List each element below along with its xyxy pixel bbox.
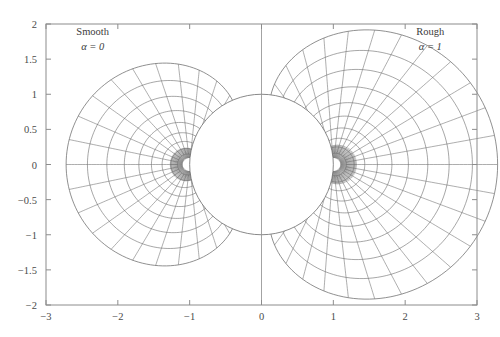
mesh-ray <box>178 64 188 154</box>
annotation-rough-title: Rough <box>416 25 444 39</box>
mesh-ray <box>343 173 451 268</box>
x-tick-label: 0 <box>259 311 264 322</box>
mesh-ray <box>335 176 349 298</box>
mesh-ray <box>156 175 187 266</box>
x-tick-label: −2 <box>112 311 123 322</box>
x-tick-label: 1 <box>331 311 336 322</box>
annotation-smooth-subtitle: α = 0 <box>76 39 109 53</box>
mesh-ray <box>339 175 402 294</box>
x-tick-label: 2 <box>403 311 408 322</box>
mesh-ray <box>69 167 178 190</box>
mesh-ray <box>133 174 184 260</box>
y-tick-label: −1.5 <box>0 264 37 275</box>
annotation-rough: Rough α = 1 <box>416 25 444 53</box>
annotation-rough-subtitle: α = 1 <box>416 39 444 53</box>
mesh-ray <box>69 140 178 163</box>
y-tick-label: 1 <box>0 89 37 100</box>
mesh-ray <box>343 62 451 157</box>
y-tick-label: −1 <box>0 229 37 240</box>
mesh-ray <box>78 169 179 213</box>
mesh-ray <box>156 64 187 155</box>
mesh-ray <box>337 30 375 153</box>
mesh-layer <box>66 24 498 305</box>
y-tick-label: 0.5 <box>0 124 37 135</box>
y-tick-label: 1.5 <box>0 54 37 65</box>
mesh-ray <box>178 175 188 265</box>
y-tick-label: 2 <box>0 19 37 30</box>
x-tick-label: −3 <box>40 311 51 322</box>
x-tick-label: −1 <box>184 311 195 322</box>
figure-root: 21.510.50−0.5−1−1.5−2 −3−2−10123 Smooth … <box>0 0 500 337</box>
mesh-ray <box>111 80 182 156</box>
annotation-smooth-title: Smooth <box>76 25 109 39</box>
y-tick-label: −0.5 <box>0 194 37 205</box>
y-tick-label: −2 <box>0 300 37 311</box>
mesh-ray <box>111 173 182 249</box>
y-tick-label: 0 <box>0 159 37 170</box>
mesh-ray <box>337 176 375 299</box>
x-tick-label: 3 <box>474 311 479 322</box>
annotation-smooth: Smooth α = 0 <box>76 25 109 53</box>
mesh-ray <box>339 35 402 154</box>
mesh-ray <box>335 31 349 153</box>
mesh-ray <box>133 69 184 155</box>
mesh-ray <box>78 116 179 160</box>
